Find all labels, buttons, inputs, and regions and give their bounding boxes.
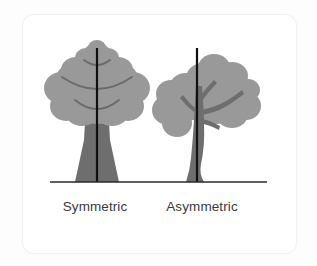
tree-illustration: [0, 0, 317, 266]
symmetric-tree: [44, 40, 150, 182]
asymmetric-tree: [152, 48, 261, 182]
label-asymmetric: Asymmetric: [142, 198, 262, 215]
tree-symmetry-figure: Symmetric Asymmetric: [0, 0, 317, 266]
label-symmetric: Symmetric: [35, 198, 155, 215]
